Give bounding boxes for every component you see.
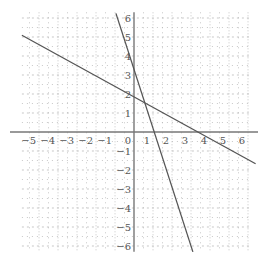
y-tick-label: 1 [125,108,131,119]
x-tick-label: −5 [21,135,36,146]
y-tick-label: −5 [116,222,131,233]
x-tick-label: 1 [144,135,150,146]
y-tick-label: 3 [125,70,131,81]
x-tick-label: −2 [78,135,93,146]
y-tick-label: 6 [125,13,131,24]
y-tick-label: −3 [116,184,131,195]
x-tick-label: −1 [97,135,112,146]
y-tick-label: −4 [116,203,131,214]
axes [10,12,258,251]
y-tick-label: −2 [116,165,131,176]
y-tick-label: −6 [116,241,131,252]
x-tick-label: 6 [239,135,245,146]
y-tick-label: −1 [116,146,131,157]
x-tick-label: 3 [182,135,188,146]
coordinate-plane: −5−4−3−2−10123456−6−5−4−3−2−1123456 [0,0,264,268]
x-tick-label: 0 [125,135,131,146]
line-shallow [22,35,256,164]
x-tick-label: −4 [40,135,55,146]
x-tick-label: −3 [59,135,74,146]
x-tick-label: 2 [163,135,169,146]
